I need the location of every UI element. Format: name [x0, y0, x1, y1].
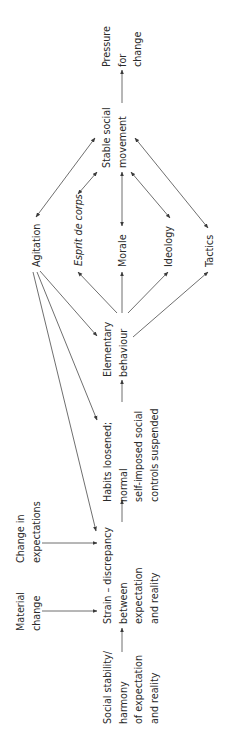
node-habits-loosened: Habits loosened; normal self-imposed soc…: [102, 408, 160, 502]
svg-text:Pressure: Pressure: [101, 26, 112, 67]
svg-text:and reality: and reality: [149, 572, 160, 624]
svg-text:controls suspended: controls suspended: [149, 408, 160, 502]
svg-text:change: change: [31, 596, 42, 631]
svg-text:Morale: Morale: [117, 234, 128, 267]
node-tactics: Tactics: [204, 235, 215, 268]
svg-text:Stable social: Stable social: [101, 107, 112, 168]
arrow-tactics-stable: [135, 138, 208, 228]
svg-text:of expectation: of expectation: [133, 655, 144, 724]
svg-text:and reality: and reality: [149, 672, 160, 724]
arrow-esprit-stable: [78, 172, 97, 194]
arrow-agitation-to-elementary: [40, 271, 97, 336]
svg-text:Habits loosened;: Habits loosened;: [102, 422, 113, 502]
arrow-ideology-stable: [131, 172, 170, 218]
svg-text:harmony: harmony: [118, 681, 129, 724]
svg-text:expectations: expectations: [31, 501, 42, 563]
svg-text:Change in: Change in: [15, 514, 26, 563]
svg-text:between: between: [118, 583, 129, 625]
node-ideology: Ideology: [163, 226, 174, 267]
svg-text:movement: movement: [117, 116, 128, 168]
arrow-elementary-to-esprit: [78, 272, 117, 313]
arrow-agitation-stable: [36, 138, 95, 217]
social-movement-diagram: Pressure for change Stable social moveme…: [0, 0, 226, 739]
node-agitation: Agitation: [31, 224, 42, 267]
node-pressure-for-change: Pressure for change: [101, 26, 143, 67]
arrow-elementary-to-tactics: [133, 272, 208, 337]
svg-text:expectation: expectation: [133, 567, 144, 624]
svg-text:Agitation: Agitation: [31, 224, 42, 267]
svg-text:Material: Material: [15, 592, 26, 631]
svg-text:Strain – discrepancy: Strain – discrepancy: [102, 527, 113, 624]
svg-text:normal: normal: [118, 468, 129, 502]
node-stable-social-movement: Stable social movement: [101, 107, 128, 168]
svg-text:Social stability/: Social stability/: [102, 650, 113, 724]
arrow-elementary-to-ideology: [128, 272, 168, 313]
node-esprit-de-corps: Esprit de corps: [73, 194, 84, 266]
svg-text:behaviour: behaviour: [118, 329, 129, 377]
node-elementary-behaviour: Elementary behaviour: [102, 321, 129, 377]
node-strain: Strain – discrepancy between expectation…: [102, 527, 160, 624]
node-morale: Morale: [117, 234, 128, 267]
svg-text:change: change: [132, 32, 143, 67]
svg-text:Tactics: Tactics: [204, 235, 215, 268]
arrow-agitation-to-habits: [37, 272, 97, 420]
node-social-stability: Social stability/ harmony of expectation…: [102, 650, 160, 724]
svg-text:self-imposed social: self-imposed social: [133, 411, 144, 502]
node-change-in-expectations: Change in expectations: [15, 501, 42, 563]
svg-text:Elementary: Elementary: [102, 321, 113, 377]
svg-text:Esprit de corps: Esprit de corps: [73, 194, 84, 266]
arrow-agitation-to-strain: [33, 272, 96, 531]
svg-text:for: for: [117, 54, 128, 67]
svg-text:Ideology: Ideology: [163, 226, 174, 267]
node-material-change: Material change: [15, 592, 42, 631]
